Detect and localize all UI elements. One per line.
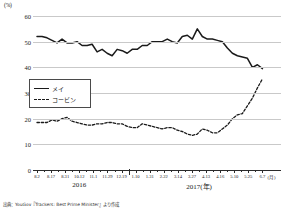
gridline xyxy=(33,67,281,68)
gridline xyxy=(33,16,281,17)
x-axis-tick-label: 1.10 xyxy=(132,174,140,179)
x-axis-tick-label: 1.31 xyxy=(146,174,154,179)
x-axis-minor-tick xyxy=(86,170,87,172)
x-axis-tick xyxy=(122,170,123,173)
x-axis-tick-label: 8.31 xyxy=(61,174,69,179)
y-axis-tick-label: 50 xyxy=(7,38,31,45)
legend-swatch-solid-icon xyxy=(34,88,49,89)
legend-label-may: メイ xyxy=(52,84,64,93)
x-axis-tick xyxy=(51,170,52,173)
x-axis-tick xyxy=(262,170,263,173)
gridline xyxy=(33,119,281,120)
x-axis-minor-tick xyxy=(185,170,186,172)
x-axis-minor-tick xyxy=(58,170,59,172)
x-axis-tick-label: 2.22 xyxy=(160,174,168,179)
source-note: 出典：YouGov『Trackers: Best Prime Minister』… xyxy=(3,201,119,207)
x-axis-minor-tick xyxy=(100,170,101,172)
y-axis-tick-label: 20 xyxy=(7,115,31,122)
x-axis-minor-tick xyxy=(72,170,73,172)
x-axis-tick-label: 3.27 xyxy=(188,174,196,179)
x-axis-tick xyxy=(248,170,249,173)
x-axis-tick xyxy=(136,170,137,173)
x-axis-minor-tick xyxy=(157,170,158,172)
x-axis-tick xyxy=(107,170,108,173)
x-axis-tick-label: 4.16 xyxy=(216,174,224,179)
year-separator xyxy=(129,169,130,175)
y-axis-tick-label: 40 xyxy=(7,64,31,71)
x-axis-minor-tick xyxy=(255,170,256,172)
x-axis-tick-label: 5.25 xyxy=(244,174,252,179)
x-axis-tick xyxy=(79,170,80,173)
x-axis-tick-label: 10.12 xyxy=(74,174,84,179)
gridline xyxy=(33,42,281,43)
x-axis-tick-label: 12.19 xyxy=(116,174,126,179)
x-axis-minor-tick xyxy=(171,170,172,172)
x-axis-tick-label: 8.2 xyxy=(34,174,40,179)
y-axis-tick-label: 30 xyxy=(7,90,31,97)
chart-container: (%) 0102030405060 8.28.178.3110.1211.111… xyxy=(0,0,293,210)
legend-label-corbyn: コービン xyxy=(52,95,76,104)
x-axis-tick-label: 6.7 xyxy=(260,174,266,179)
x-axis-tick xyxy=(234,170,235,173)
x-axis-year-label: 2017(年) xyxy=(186,181,212,191)
gridline xyxy=(33,144,281,145)
y-axis-tick-label: 0 xyxy=(7,167,31,174)
x-axis-tick xyxy=(93,170,94,173)
x-axis-minor-tick xyxy=(199,170,200,172)
legend-item-may: メイ xyxy=(34,83,86,94)
x-axis-tick-label: 11.1 xyxy=(89,174,97,179)
legend: メイ コービン xyxy=(29,79,91,108)
x-axis-tick xyxy=(192,170,193,173)
x-axis-tick xyxy=(178,170,179,173)
x-axis-tick-label: 11.29 xyxy=(102,174,112,179)
legend-item-corbyn: コービン xyxy=(34,94,86,105)
x-axis-tick xyxy=(206,170,207,173)
x-axis-tick-label: 4.13 xyxy=(202,174,210,179)
x-axis-tick xyxy=(37,170,38,173)
x-axis-minor-tick xyxy=(44,170,45,172)
x-axis-tick-label: 8.17 xyxy=(47,174,55,179)
x-axis-minor-tick xyxy=(143,170,144,172)
x-axis-tick xyxy=(150,170,151,173)
y-axis-tick-label: 10 xyxy=(7,141,31,148)
x-axis-tick xyxy=(164,170,165,173)
x-axis-tick xyxy=(220,170,221,173)
x-axis-tick-label: 5.10 xyxy=(230,174,238,179)
legend-swatch-dashed-icon xyxy=(34,99,49,100)
x-axis-minor-tick xyxy=(213,170,214,172)
x-axis-year-label: 2016 xyxy=(72,181,86,189)
x-axis-tick xyxy=(65,170,66,173)
x-axis-unit-label: (月) xyxy=(267,174,275,180)
x-axis-minor-tick xyxy=(227,170,228,172)
x-axis-tick-label: 3.14 xyxy=(174,174,182,179)
y-axis: 0102030405060 xyxy=(0,0,31,210)
line-series-may xyxy=(37,29,262,69)
y-axis-tick-label: 60 xyxy=(7,13,31,20)
x-axis-minor-tick xyxy=(115,170,116,172)
x-axis-minor-tick xyxy=(241,170,242,172)
